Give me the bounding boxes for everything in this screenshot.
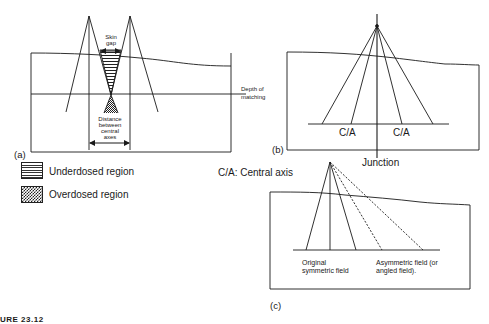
skin-gap-label: Skin gap [102, 34, 120, 46]
distance-label: Distance between central axes [93, 116, 127, 140]
original-field-line-2: symmetric field [302, 267, 349, 275]
patient-contour-b [287, 52, 479, 150]
junction-label: Junction [362, 157, 399, 168]
central-axis-right-label: C/A [393, 127, 410, 138]
underdosed-region [100, 50, 121, 95]
legend-underdosed-label: Underdosed region [49, 166, 134, 177]
distance-line-4: axes [93, 134, 127, 140]
overdosed-swatch [21, 186, 43, 203]
depth-line-1: Depth of [241, 86, 265, 92]
depth-of-matching-label: Depth of matching [241, 86, 265, 100]
central-axis-left-label: C/A [339, 127, 356, 138]
patient-contour-a [31, 53, 231, 152]
patient-contour-c [270, 192, 470, 289]
skin-gap-line-2: gap [102, 40, 120, 46]
original-field-line-1: Original [302, 259, 349, 267]
panel-a [31, 16, 246, 152]
asymmetric-field-line-2: angled field). [376, 267, 438, 275]
underdosed-swatch [21, 162, 43, 179]
overdosed-region [104, 95, 118, 113]
panel-c [270, 162, 470, 289]
depth-line-2: matching [241, 94, 265, 100]
asymmetric-field-line-1: Asymmetric field (or [376, 259, 438, 267]
panel-c-label: (c) [270, 300, 281, 311]
legend-overdosed-label: Overdosed region [49, 189, 129, 200]
panel-a-label: (a) [14, 149, 26, 160]
panel-b [287, 14, 479, 158]
original-field-label: Original symmetric field [302, 259, 349, 275]
central-axis-abbreviation: C/A: Central axis [218, 167, 293, 178]
field-matching-diagram [0, 0, 489, 324]
figure-caption: URE 23.12 [0, 315, 44, 324]
asymmetric-field-label: Asymmetric field (or angled field). [376, 259, 438, 275]
panel-b-label: (b) [272, 144, 284, 155]
